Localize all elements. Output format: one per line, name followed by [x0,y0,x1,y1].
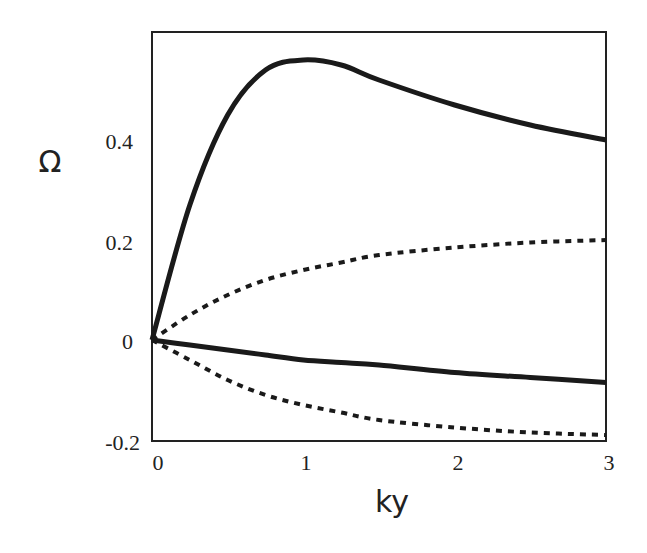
series-lower-dotted [152,340,606,435]
x-tick-1: 1 [301,450,312,475]
chart-svg: 0.4 0.2 0 -0.2 0 1 2 3 Ω ky [0,0,647,553]
y-tick-0.2: 0.2 [106,230,134,255]
y-axis-label: Ω [39,144,62,179]
x-tick-3: 3 [604,450,615,475]
x-tick-0: 0 [153,450,164,475]
series-upper-dotted [152,240,606,340]
x-tick-2: 2 [453,450,464,475]
y-tick-minus-0.2: -0.2 [105,430,140,455]
series-upper-solid [152,60,606,340]
y-tick-0: 0 [122,329,133,354]
plot-curves [152,60,606,435]
x-axis-label: ky [375,484,409,519]
y-tick-0.4: 0.4 [106,129,134,154]
